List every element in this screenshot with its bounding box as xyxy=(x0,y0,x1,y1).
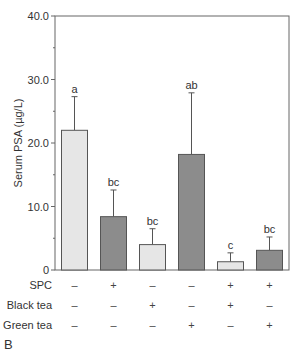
treatment-sign: + xyxy=(227,279,233,291)
significance-letter: a xyxy=(71,83,78,95)
bar-chart: 010.020.030.040.0 Serum PSA (µg/L) abcbc… xyxy=(0,0,297,354)
bar xyxy=(101,217,127,270)
treatment-sign: – xyxy=(110,299,117,311)
significance-letter: bc xyxy=(264,223,276,235)
y-tick-label: 40.0 xyxy=(28,10,49,22)
treatment-label: SPC xyxy=(29,279,52,291)
bars: abcbcabcbc xyxy=(62,79,283,270)
treatment-row: Green tea–––+–+ xyxy=(3,319,273,331)
bar-group: a xyxy=(62,83,88,270)
treatment-sign: – xyxy=(71,279,78,291)
treatment-sign: – xyxy=(71,299,78,311)
bar-group: bc xyxy=(257,223,283,270)
bar-group: ab xyxy=(179,79,205,270)
treatment-label: Black tea xyxy=(7,299,53,311)
plot-frame xyxy=(55,16,289,270)
y-tick-label: 0 xyxy=(43,264,49,276)
bar-group: bc xyxy=(140,215,166,270)
plot-area xyxy=(55,16,289,270)
treatment-sign: + xyxy=(149,299,155,311)
panel-label: B xyxy=(4,337,13,352)
bar-group: bc xyxy=(101,176,127,270)
significance-letter: bc xyxy=(147,215,159,227)
y-axis-label: Serum PSA (µg/L) xyxy=(12,99,24,188)
bar xyxy=(257,250,283,270)
treatment-sign: – xyxy=(149,319,156,331)
bar xyxy=(62,130,88,270)
y-tick-label: 10.0 xyxy=(28,201,49,213)
treatment-sign: + xyxy=(227,299,233,311)
treatment-sign: + xyxy=(110,279,116,291)
significance-letter: c xyxy=(228,239,234,251)
treatment-sign: + xyxy=(266,319,272,331)
treatment-sign: + xyxy=(266,279,272,291)
treatment-row: SPC–+––++ xyxy=(29,279,272,291)
y-tick-label: 30.0 xyxy=(28,74,49,86)
treatment-table: SPC–+––++Black tea––+–+–Green tea–––+–+ xyxy=(3,279,273,331)
bar xyxy=(218,262,244,270)
significance-letter: bc xyxy=(108,176,120,188)
bar xyxy=(140,245,166,270)
treatment-row: Black tea––+–+– xyxy=(7,299,274,311)
treatment-sign: + xyxy=(188,319,194,331)
significance-letter: ab xyxy=(185,79,197,91)
y-tick-label: 20.0 xyxy=(28,137,49,149)
treatment-sign: – xyxy=(227,319,234,331)
y-axis: 010.020.030.040.0 xyxy=(28,10,55,276)
bar-group: c xyxy=(218,239,244,270)
treatment-sign: – xyxy=(188,279,195,291)
treatment-sign: – xyxy=(266,299,273,311)
treatment-label: Green tea xyxy=(3,319,53,331)
treatment-sign: – xyxy=(110,319,117,331)
bar xyxy=(179,154,205,270)
treatment-sign: – xyxy=(71,319,78,331)
treatment-sign: – xyxy=(149,279,156,291)
treatment-sign: – xyxy=(188,299,195,311)
